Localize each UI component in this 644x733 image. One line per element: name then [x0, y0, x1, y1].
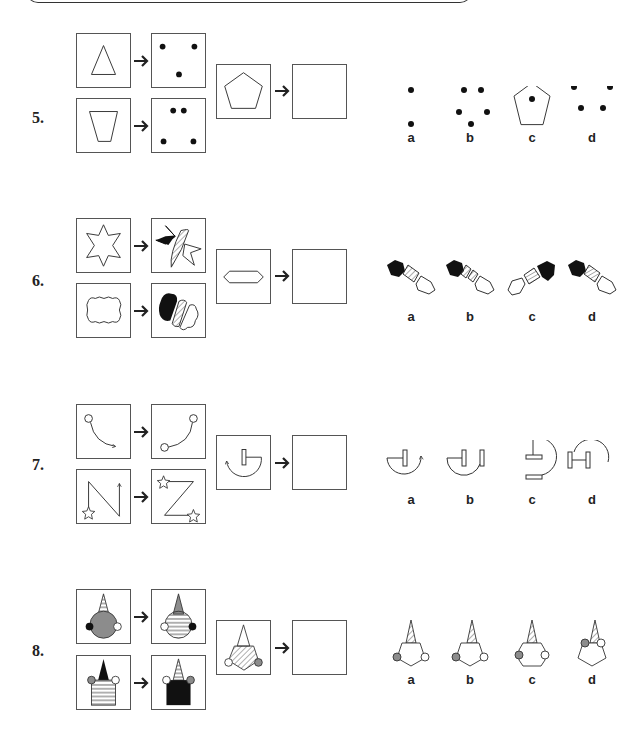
arrow-icon: [133, 426, 149, 438]
q6-pair1-source-box: [76, 218, 131, 273]
option-label: c: [504, 130, 560, 145]
three-dots-icon: [152, 34, 205, 87]
q8-pair1-source-box: [76, 589, 131, 644]
option-a-figure-icon: [383, 620, 439, 670]
option-label: d: [564, 130, 620, 145]
split-star-icon: [152, 219, 205, 272]
option-label: c: [504, 309, 560, 324]
q5-option-c[interactable]: c: [504, 86, 560, 156]
option-label: a: [383, 492, 439, 507]
q5-pair2-result-box: [151, 98, 206, 153]
q5-pair1-source-box: [76, 33, 131, 88]
curved-arrow-circle-icon: [77, 405, 130, 458]
q7-pair2-source-box: [76, 469, 131, 524]
triangle-icon: [77, 34, 130, 87]
q6-pair1-result-box: [151, 218, 206, 273]
option-label: d: [564, 492, 620, 507]
z-path-stars-icon: [152, 470, 205, 523]
option-d-shape-icon: [564, 440, 620, 490]
q8-pair2-result-box: [151, 655, 206, 710]
grey-head-striped-hat-icon: [77, 590, 130, 643]
q8-pair2-source-box: [76, 655, 131, 710]
q5-answer-box[interactable]: [292, 64, 347, 119]
q5-pair2-source-box: [76, 98, 131, 153]
arrow-icon: [133, 677, 149, 689]
option-label: a: [383, 309, 439, 324]
six-point-star-icon: [77, 219, 130, 272]
q7-option-c[interactable]: c: [504, 440, 560, 510]
q6-answer-box[interactable]: [292, 249, 347, 304]
option-d-figure-icon: [564, 620, 620, 670]
q8-option-b[interactable]: b: [442, 620, 498, 690]
q7-option-a[interactable]: a: [383, 440, 439, 510]
arrow-icon: [274, 642, 290, 654]
hatched-pentagon-white-hat-icon: [217, 621, 270, 674]
option-label: b: [442, 492, 498, 507]
q7-pair2-result-box: [151, 469, 206, 524]
question-number-8: 8.: [32, 642, 44, 660]
option-b-shape-icon: [442, 440, 498, 490]
option-label: b: [442, 309, 498, 324]
q8-prompt-box: [216, 620, 271, 675]
black-square-striped-hat-icon: [152, 656, 205, 709]
two-dots-icon: [383, 86, 439, 136]
arrow-icon: [133, 55, 149, 67]
q8-option-d[interactable]: d: [564, 620, 620, 690]
trapezoid-icon: [77, 99, 130, 152]
split-hexagon-a-icon: [383, 257, 439, 307]
q7-option-b[interactable]: b: [442, 440, 498, 510]
option-label: b: [442, 672, 498, 687]
option-label: a: [383, 672, 439, 687]
option-label: d: [564, 672, 620, 687]
q8-option-a[interactable]: a: [383, 620, 439, 690]
elongated-hexagon-icon: [217, 250, 270, 303]
arrow-icon: [274, 85, 290, 97]
arrow-icon: [133, 611, 149, 623]
q8-pair1-result-box: [151, 589, 206, 644]
n-path-star-icon: [77, 470, 130, 523]
q5-option-a[interactable]: a: [383, 86, 439, 156]
pentagon-icon: [217, 65, 270, 118]
arrow-icon: [274, 270, 290, 282]
option-c-figure-icon: [504, 620, 560, 670]
q7-pair1-source-box: [76, 404, 131, 459]
q7-answer-box[interactable]: [292, 435, 347, 490]
option-label: b: [442, 130, 498, 145]
q6-option-b[interactable]: b: [442, 257, 498, 327]
option-b-figure-icon: [442, 620, 498, 670]
five-dots-ring-icon: [564, 86, 620, 136]
q6-option-a[interactable]: a: [383, 257, 439, 327]
q5-pair1-result-box: [151, 33, 206, 88]
header-frame: [26, 0, 472, 3]
five-dots-icon: [442, 86, 498, 136]
q7-option-d[interactable]: d: [564, 440, 620, 510]
q5-option-b[interactable]: b: [442, 86, 498, 156]
four-dots-icon: [152, 99, 205, 152]
q8-option-c[interactable]: c: [504, 620, 560, 690]
pentagon-dot-icon: [504, 86, 560, 136]
split-hexagon-c-icon: [504, 257, 560, 307]
q5-option-d[interactable]: d: [564, 86, 620, 156]
arrow-icon: [274, 457, 290, 469]
option-label: a: [383, 130, 439, 145]
arrow-icon: [133, 240, 149, 252]
q6-pair2-result-box: [151, 283, 206, 338]
arrow-icon: [133, 120, 149, 132]
q6-option-c[interactable]: c: [504, 257, 560, 327]
striped-head-grey-hat-icon: [152, 590, 205, 643]
option-c-shape-icon: [504, 440, 560, 490]
question-number-7: 7.: [32, 456, 44, 474]
q6-option-d[interactable]: d: [564, 257, 620, 327]
split-cloud-icon: [152, 284, 205, 337]
option-a-shape-icon: [383, 440, 439, 490]
arrow-icon: [133, 491, 149, 503]
question-number-5: 5.: [32, 109, 44, 127]
q7-pair1-result-box: [151, 404, 206, 459]
question-number-6: 6.: [32, 272, 44, 290]
q6-prompt-box: [216, 249, 271, 304]
split-hexagon-b-icon: [442, 257, 498, 307]
q8-answer-box[interactable]: [292, 620, 347, 675]
q5-prompt-box: [216, 64, 271, 119]
arrow-icon: [133, 305, 149, 317]
curve-two-circles-icon: [152, 405, 205, 458]
